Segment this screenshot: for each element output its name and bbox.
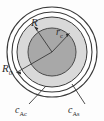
label-radius-R0-sub: 0	[9, 69, 13, 77]
label-radius-R-base: R	[31, 16, 38, 28]
label-concentration-core-sub: Ac	[19, 110, 26, 117]
label-concentration-surface: cAs	[68, 105, 80, 117]
label-radius-R0: R0	[2, 63, 12, 77]
label-concentration-core: cAc	[15, 105, 27, 117]
label-radius-R: R	[31, 17, 38, 28]
label-radius-R0-base: R	[2, 62, 9, 74]
concentric-sphere-diagram: R rc R0 cAc cAs	[0, 0, 104, 121]
diagram-canvas	[0, 0, 104, 121]
label-radius-rc-sub: c	[60, 32, 63, 39]
label-concentration-surface-sub: As	[72, 110, 79, 117]
label-radius-rc: rc	[56, 27, 63, 39]
